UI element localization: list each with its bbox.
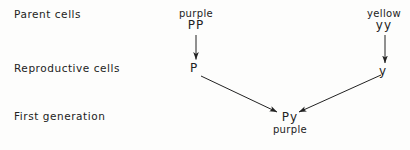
arrow-right-gamete-to-offspring — [299, 75, 381, 112]
arrow-layer — [0, 0, 410, 150]
genetics-cross-diagram: Parent cells Reproductive cells First ge… — [0, 0, 410, 150]
arrow-left-gamete-to-offspring — [201, 76, 277, 112]
